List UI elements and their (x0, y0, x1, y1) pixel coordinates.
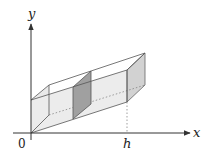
prism-diagram: y x 0 h (0, 0, 206, 154)
x-axis-label: x (193, 125, 201, 140)
origin-label: 0 (18, 137, 26, 151)
y-axis-label: y (27, 6, 36, 21)
h-tick-label: h (123, 136, 131, 151)
right-end-face (127, 53, 145, 102)
